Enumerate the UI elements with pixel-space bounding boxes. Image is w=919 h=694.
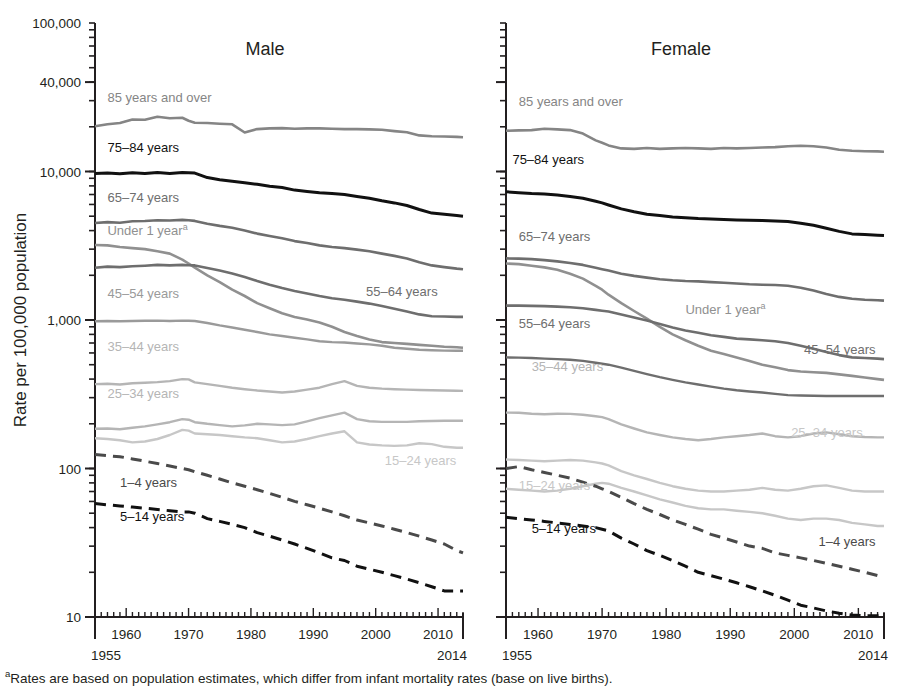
series-label-1-4-years: 1–4 years (120, 475, 178, 490)
y-tick-label: 40,000 (40, 75, 81, 90)
x-end-label: 2014 (858, 648, 889, 660)
footnote-text: Rates are based on population estimates,… (10, 671, 612, 686)
series-label-1-4-years: 1–4 years (818, 534, 876, 549)
series-label-75-84-years: 75–84 years (512, 152, 584, 167)
series-label-45-54-years: 45–54 years (804, 342, 876, 357)
series-label-45-54-years: 45–54 years (107, 286, 179, 301)
series-label-35-44-years: 35–44 years (107, 339, 179, 354)
series-label-75-84-years: 75–84 years (107, 140, 179, 155)
series-label-25-34-years: 25–34 years (107, 386, 179, 401)
y-tick-label: 1,000 (47, 313, 81, 328)
series-label-65-74-years: 65–74 years (519, 229, 591, 244)
x-tick-label: 2000 (361, 627, 391, 642)
series-label-under-1-year: Under 1 yeara (685, 301, 765, 317)
x-tick-label: 1960 (111, 627, 141, 642)
chart-figure: Rate per 100,000 populationMale101001,00… (0, 0, 919, 694)
panel-title-female: Female (651, 39, 711, 59)
series-line-85-years-and-over (506, 129, 884, 152)
series-label-15-24-years: 15–24 years (519, 478, 591, 493)
panel-title-male: Male (245, 39, 284, 59)
x-tick-label: 1960 (523, 627, 553, 642)
series-label-35-44-years: 35–44 years (532, 359, 604, 374)
series-label-15-24-years: 15–24 years (385, 453, 457, 468)
x-tick-label: 1970 (174, 627, 204, 642)
x-tick-label: 1980 (651, 627, 681, 642)
x-tick-label: 2010 (843, 627, 873, 642)
y-tick-label: 10 (66, 610, 81, 625)
panel-male: Male101001,00010,00040,000100,0001960197… (32, 16, 467, 660)
x-tick-label: 1990 (715, 627, 745, 642)
series-label-65-74-years: 65–74 years (107, 190, 179, 205)
panel-female: Female1960197019801990200020101955201485… (496, 23, 888, 660)
y-axis-label: Rate per 100,000 population (11, 213, 30, 428)
x-tick-label: 2010 (423, 627, 453, 642)
x-start-label: 1955 (91, 648, 121, 660)
series-line-25-34-years (95, 413, 463, 430)
footnote: aRates are based on population estimates… (5, 668, 613, 686)
series-label-25-34-years: 25–34 years (791, 425, 863, 440)
y-tick-label: 10,000 (40, 165, 81, 180)
series-label-85-years-and-over: 85 years and over (519, 94, 624, 109)
series-line-85-years-and-over (95, 117, 463, 138)
chart-canvas: Rate per 100,000 populationMale101001,00… (0, 0, 919, 660)
series-label-55-64-years: 55–64 years (366, 284, 438, 299)
series-line-65-74-years (506, 258, 884, 300)
x-tick-label: 1990 (298, 627, 328, 642)
series-label-under-1-year: Under 1 yeara (107, 222, 187, 238)
series-label-85-years-and-over: 85 years and over (107, 90, 212, 105)
y-tick-label: 100 (58, 462, 81, 477)
x-tick-label: 1980 (236, 627, 266, 642)
series-label-5-14-years: 5–14 years (532, 521, 597, 536)
x-start-label: 1955 (502, 648, 532, 660)
series-label-55-64-years: 55–64 years (519, 316, 591, 331)
series-line-15-24-years (95, 430, 463, 448)
x-tick-label: 1970 (587, 627, 617, 642)
x-end-label: 2014 (437, 648, 468, 660)
y-tick-label: 100,000 (32, 16, 81, 31)
x-tick-label: 2000 (779, 627, 809, 642)
series-label-5-14-years: 5–14 years (120, 509, 185, 524)
